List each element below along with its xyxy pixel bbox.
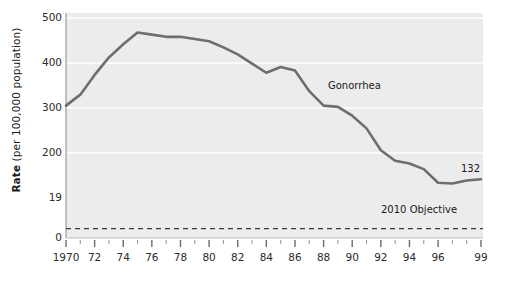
x-axis-ticks: [66, 240, 481, 247]
x-tick-label-80: 80: [202, 252, 215, 263]
x-tick-label-88: 88: [317, 252, 330, 263]
x-tick-label-72: 72: [88, 252, 101, 263]
x-tick-label-99: 99: [474, 252, 487, 263]
x-tick-label-84: 84: [260, 252, 273, 263]
x-tick-label-1970: 1970: [53, 252, 80, 263]
x-tick-label-92: 92: [374, 252, 387, 263]
x-tick-label-82: 82: [231, 252, 244, 263]
x-tick-label-76: 76: [145, 252, 158, 263]
x-tick-label-94: 94: [403, 252, 416, 263]
endpoint-value-label-132: 132: [461, 164, 480, 174]
x-tick-label-86: 86: [288, 252, 301, 263]
series-label-gonorrhea: Gonorrhea: [328, 81, 381, 91]
x-axis-tick-labels: 19707274767880828486889092949699: [0, 252, 510, 272]
reference-line-label-2010-objective: 2010 Objective: [381, 205, 457, 215]
x-tick-label-78: 78: [174, 252, 187, 263]
gonorrhea-rate-chart: Rate (per 100,000 population) 500 400 30…: [0, 0, 510, 284]
x-tick-label-90: 90: [346, 252, 359, 263]
x-tick-label-74: 74: [117, 252, 130, 263]
plot-area: [0, 0, 510, 284]
x-tick-label-96: 96: [431, 252, 444, 263]
